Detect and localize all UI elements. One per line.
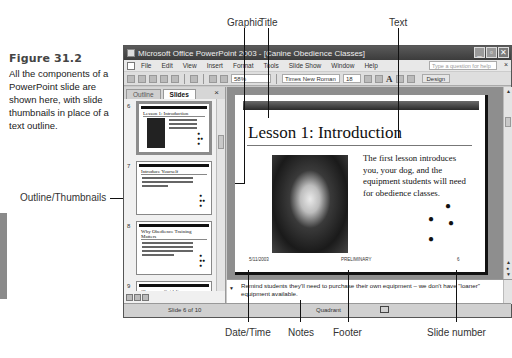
callout-footer: Footer <box>333 327 362 338</box>
scroll-thumb[interactable] <box>218 135 224 149</box>
thumbnail-title: Why Obedience Training Matters <box>141 229 207 240</box>
slide-body-text[interactable]: The first lesson introduces you, your do… <box>363 153 473 199</box>
slide-title[interactable]: Lesson 1: Introduction <box>248 123 402 143</box>
window-title: Microsoft Office PowerPoint 2003 - [Cani… <box>138 49 365 58</box>
document-icon[interactable] <box>127 62 135 70</box>
dog-photo-graphic[interactable] <box>272 155 348 253</box>
thumbnail-text-lines <box>142 177 206 187</box>
spelling-icon[interactable] <box>171 75 179 83</box>
paw-prints-icon: ● ●●● <box>199 193 205 208</box>
zoom-select[interactable]: 58% <box>231 74 271 83</box>
slide-thumbnail[interactable]: Introduce Yourself ● ●●● <box>136 161 212 215</box>
page-nav-buttons[interactable]: ▲●▼ <box>506 259 511 277</box>
chart-icon[interactable] <box>220 75 228 83</box>
pane-close-icon[interactable]: × <box>214 88 219 97</box>
pane-scrollbar[interactable] <box>216 99 225 291</box>
slide-thumbnail[interactable]: Classroom Guidelines ● ●●● <box>136 281 212 291</box>
font-size-select[interactable]: 18 <box>343 74 361 83</box>
restore-button[interactable]: ▫ <box>486 47 497 58</box>
powerpoint-window: Microsoft Office PowerPoint 2003 - [Cani… <box>123 45 512 318</box>
minimize-button[interactable]: _ <box>474 47 485 58</box>
notes-text[interactable]: Remind students they'll need to purchase… <box>241 282 480 297</box>
help-search-input[interactable]: Type a question for help <box>429 61 497 70</box>
slide-thumbnail[interactable]: Lesson 1: Introduction ● ●●● <box>136 101 212 155</box>
thumbnail-row[interactable]: 6 Lesson 1: Introduction ● ●●● <box>124 99 216 159</box>
open-icon[interactable] <box>138 75 146 83</box>
scroll-thumb[interactable] <box>505 117 511 127</box>
design-button[interactable]: Design <box>422 74 451 83</box>
figure-caption-text: All the components of a PowerPoint slide… <box>9 67 117 132</box>
document-close-icon[interactable]: × <box>504 61 508 68</box>
pane-tabs: Outline Slides × <box>124 87 225 99</box>
menu-bar: File Edit View Insert Format Tools Slide… <box>124 60 511 72</box>
paw-print-icon: ● <box>445 200 451 211</box>
window-controls: _ ▫ ✕ <box>474 47 509 58</box>
paw-print-icon: ● <box>428 213 434 224</box>
slide-sorter-view-icon[interactable] <box>134 294 141 301</box>
tab-outline[interactable]: Outline <box>126 89 161 99</box>
thumbnail-number: 9 <box>127 283 130 289</box>
thumbnail-row[interactable]: 7 Introduce Yourself ● ●●● <box>124 159 216 219</box>
status-bar: Slide 6 of 10 Quadrant <box>124 303 511 317</box>
scroll-up-icon[interactable]: ▲ <box>506 88 511 94</box>
thumbnail-text-lines <box>142 242 206 256</box>
thumbnail-title-bar <box>139 284 209 287</box>
thumbnail-title-bar <box>139 164 209 167</box>
toolbar-separator <box>276 74 277 84</box>
menu-insert[interactable]: Insert <box>207 62 223 69</box>
callout-line-footer <box>348 270 349 322</box>
bullets-icon[interactable] <box>375 75 383 83</box>
font-select[interactable]: Times New Roman <box>282 74 340 83</box>
new-icon[interactable] <box>127 75 135 83</box>
callout-line-notes <box>300 300 301 322</box>
paw-prints-icon: ● ●●● <box>199 253 205 268</box>
slide-title-bar <box>243 101 479 110</box>
paw-prints-icon: ● ●●● <box>197 131 203 146</box>
spelling-status-icon <box>380 306 389 313</box>
close-button[interactable]: ✕ <box>498 47 509 58</box>
expand-notes-icon[interactable]: ▼ <box>229 284 234 292</box>
notes-pane[interactable]: ▼ Remind students they'll need to purcha… <box>227 279 512 303</box>
toolbar-separator <box>203 74 204 84</box>
thumbnail-row[interactable]: 8 Why Obedience Training Matters ● ●●● <box>124 219 216 279</box>
tab-slides[interactable]: Slides <box>163 89 196 99</box>
slide-number: 6 <box>457 257 460 262</box>
callout-date-time: Date/Time <box>225 327 271 338</box>
thumbnail-row[interactable]: 9 Classroom Guidelines ● ●●● <box>124 279 216 291</box>
figure-title: Figure 31.2 <box>9 52 117 65</box>
slide-date: 5/11/2003 <box>249 257 269 262</box>
increase-indent-icon[interactable] <box>407 75 415 83</box>
callout-line-slide-number <box>456 270 457 322</box>
slide-footer: PRELIMINARY <box>341 257 371 262</box>
grow-font-button[interactable]: A <box>386 74 393 84</box>
paw-print-icon: ● <box>428 233 434 244</box>
decrease-indent-icon[interactable] <box>396 75 404 83</box>
menu-file[interactable]: File <box>141 62 151 69</box>
powerpoint-app-icon <box>127 49 135 57</box>
callout-title: Title <box>259 17 278 28</box>
slide-show-view-icon[interactable] <box>142 294 149 301</box>
permission-icon[interactable] <box>160 75 168 83</box>
slide-thumbnail[interactable]: Why Obedience Training Matters ● ●●● <box>136 221 212 275</box>
thumbnail-list: 6 Lesson 1: Introduction ● ●●● 7 Introdu… <box>124 99 216 291</box>
cut-icon[interactable] <box>190 75 198 83</box>
normal-view-icon[interactable] <box>126 294 133 301</box>
view-buttons <box>126 294 149 301</box>
save-icon[interactable] <box>149 75 157 83</box>
notes-scrollbar[interactable] <box>503 280 512 304</box>
menu-edit[interactable]: Edit <box>161 62 172 69</box>
thumbnail-number: 6 <box>127 103 130 109</box>
slide[interactable]: Lesson 1: Introduction The first lesson … <box>235 95 488 275</box>
numbering-icon[interactable] <box>364 75 372 83</box>
menu-tools[interactable]: Tools <box>264 62 279 69</box>
slide-indicator: Slide 6 of 10 <box>168 307 201 313</box>
menu-view[interactable]: View <box>183 62 197 69</box>
thumbnail-number: 7 <box>127 163 130 169</box>
menu-slide-show[interactable]: Slide Show <box>289 62 322 69</box>
slide-vertical-scrollbar[interactable]: ▲ ▲●▼ <box>503 87 512 279</box>
slides-pane: Outline Slides × 6 Lesson 1: Introductio… <box>124 87 226 303</box>
menu-window[interactable]: Window <box>331 62 354 69</box>
menu-help[interactable]: Help <box>364 62 377 69</box>
undo-icon[interactable] <box>209 75 217 83</box>
callout-text: Text <box>389 17 407 28</box>
